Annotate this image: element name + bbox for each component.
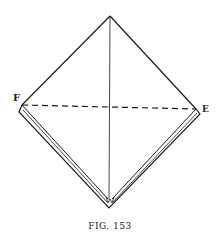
upper-right-edge (110, 16, 196, 109)
upper-left-edge (22, 16, 110, 105)
folded-square-shape (19, 16, 200, 208)
middle-lower-left-edge (23, 110, 107, 202)
center-crease-line (109, 16, 110, 200)
fold-line-f-e (22, 105, 196, 109)
origami-fold-diagram: F E FIG. 153 (0, 0, 221, 244)
inner-lower-right-edge (112, 109, 196, 199)
figure-caption: FIG. 153 (88, 221, 132, 231)
point-label-e: E (202, 104, 209, 114)
middle-lower-right-edge (113, 113, 197, 202)
point-label-f: F (13, 92, 20, 103)
inner-lower-left-edge (22, 105, 108, 199)
